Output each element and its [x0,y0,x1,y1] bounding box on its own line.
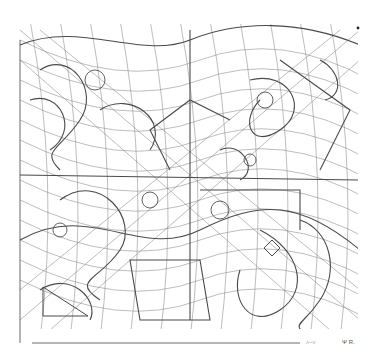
faint-annotation: ʌ~v [306,339,316,345]
artist-signature: Ψ R. [342,339,355,345]
artwork-canvas [0,0,384,361]
abstract-drawing [0,0,384,361]
